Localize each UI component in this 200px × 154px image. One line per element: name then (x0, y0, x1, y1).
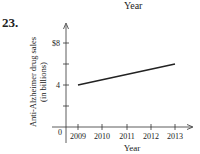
x-axis-label: Year (124, 143, 141, 153)
y-tick-label-8: $8 (52, 39, 60, 48)
y-axis-label-line1: Anti-Alzheimer drug sales (28, 37, 38, 127)
y-axis-label-line2: (in billions) (38, 62, 48, 102)
origin-label: 0 (58, 128, 62, 137)
y-tick-label-4: 4 (56, 81, 60, 90)
x-tick-label: 2013 (167, 132, 183, 141)
x-tick-label: 2009 (70, 132, 86, 141)
line-chart: $8 4 0 2009 2010 2011 2012 2013 Year Ant… (0, 0, 200, 154)
x-tick-label: 2010 (94, 132, 110, 141)
x-tick-label: 2011 (119, 132, 135, 141)
data-line (78, 64, 175, 85)
x-tick-label: 2012 (143, 132, 159, 141)
